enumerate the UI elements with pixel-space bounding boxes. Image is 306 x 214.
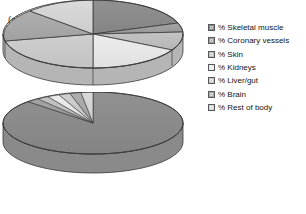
legend-label: % Kidneys [218,63,256,72]
legend-label: % Coronary vessels [218,36,289,45]
figure-container: (a) [0,0,306,214]
legend-item-coronary-vessels: % Coronary vessels [208,34,306,47]
legend-swatch-icon [208,91,215,98]
pie-chart-b [0,92,186,178]
legend-item-brain: % Brain [208,87,306,100]
legend: % Skeletal muscle % Coronary vessels % S… [208,21,306,114]
legend-swatch-icon [208,64,215,71]
legend-swatch-icon [208,24,215,31]
legend-label: % Brain [218,90,246,99]
legend-item-rest-of-body: % Rest of body [208,101,306,114]
pie-chart-a [0,0,186,92]
legend-swatch-icon [208,104,215,111]
legend-item-skin: % Skin [208,48,306,61]
legend-item-liver-gut: % Liver/gut [208,74,306,87]
pie-b-svg [0,92,186,178]
legend-label: % Rest of body [218,103,272,112]
legend-swatch-icon [208,37,215,44]
legend-label: % Skeletal muscle [218,23,283,32]
legend-swatch-icon [208,51,215,58]
pie-a-svg [0,0,186,92]
legend-item-kidneys: % Kidneys [208,61,306,74]
legend-label: % Skin [218,50,243,59]
legend-swatch-icon [208,77,215,84]
legend-item-skeletal-muscle: % Skeletal muscle [208,21,306,34]
legend-label: % Liver/gut [218,76,258,85]
